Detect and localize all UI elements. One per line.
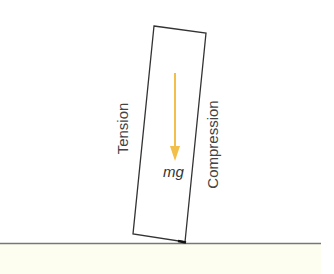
diagram-svg bbox=[0, 0, 334, 274]
tension-label: Tension bbox=[114, 93, 131, 165]
pivot-edge bbox=[178, 241, 186, 243]
weight-label: mg bbox=[163, 163, 184, 180]
compression-label: Compression bbox=[204, 85, 221, 205]
diagram: mg Tension Compression bbox=[0, 0, 334, 274]
block bbox=[133, 26, 206, 242]
